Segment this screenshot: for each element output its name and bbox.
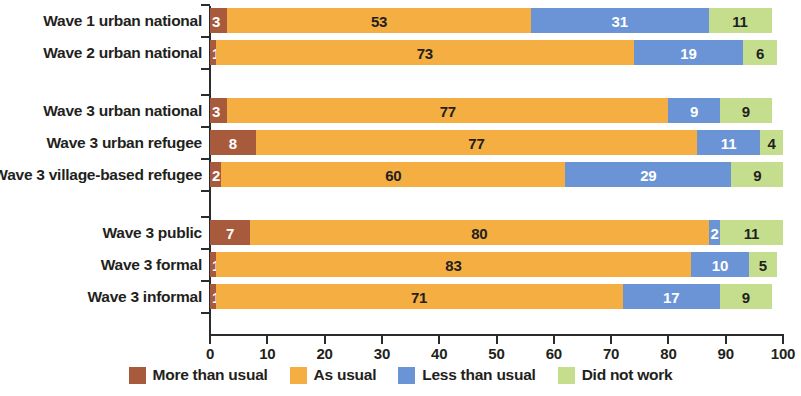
y-axis-tick [201,158,210,160]
bar-value-label: 8 [229,135,237,150]
x-axis-tick-label: 20 [302,345,348,362]
x-axis-tick [209,336,211,344]
bar-segment: 9 [731,162,783,187]
bar-value-label: 80 [471,225,487,240]
x-axis-tick [782,336,784,344]
bar-segment: 73 [216,40,634,65]
bar-value-label: 71 [411,289,427,304]
bar-segment: 2 [709,220,720,245]
bar-value-label: 2 [212,167,220,182]
bar-segment: 2 [210,162,221,187]
bar-segment: 9 [720,284,772,309]
legend-swatch [398,367,415,384]
x-axis-tick [725,336,727,344]
bar-value-label: 3 [212,13,220,28]
bar-segment: 8 [210,130,256,155]
bar-segment: 3 [210,8,227,33]
bar-value-label: 9 [742,103,750,118]
bar-segment: 53 [227,8,531,33]
y-axis-tick [201,126,210,128]
stacked-bar-chart: Wave 1 urban national3533111Wave 2 urban… [0,0,801,396]
bar-value-label: 11 [732,13,747,28]
y-axis-tick [201,312,210,314]
y-axis-tick [201,190,210,192]
y-axis-tick [201,248,210,250]
bar-row: 183105 [0,252,801,277]
x-axis-tick [266,336,268,344]
bar-value-label: 19 [680,45,696,60]
bar-value-label: 10 [712,257,728,272]
legend-item[interactable]: Did not work [558,366,673,384]
bar-segment: 29 [565,162,731,187]
bar-segment: 11 [709,8,772,33]
bar-segment: 77 [227,98,668,123]
x-axis-tick-label: 70 [588,345,634,362]
bar-row: 171179 [0,284,801,309]
x-axis-tick [438,336,440,344]
bar-value-label: 17 [663,289,679,304]
y-axis-tick [201,280,210,282]
legend-label: More than usual [153,366,268,384]
legend-label: Less than usual [422,366,535,384]
x-axis-tick-label: 90 [703,345,749,362]
bar-value-label: 60 [385,167,401,182]
bar-value-label: 31 [612,13,628,28]
bar-segment: 3 [210,98,227,123]
legend-item[interactable]: More than usual [129,366,268,384]
bar-value-label: 6 [756,45,764,60]
bar-segment: 9 [720,98,772,123]
bar-value-label: 9 [690,103,698,118]
bar-segment: 60 [221,162,565,187]
y-axis-tick [201,94,210,96]
bar-segment: 17 [623,284,720,309]
legend-item[interactable]: Less than usual [398,366,535,384]
bar-segment: 6 [743,40,777,65]
x-axis-tick [324,336,326,344]
x-axis-tick [496,336,498,344]
bar-segment: 83 [216,252,692,277]
bar-value-label: 3 [212,103,220,118]
bar-value-label: 83 [445,257,461,272]
bar-segment: 80 [250,220,708,245]
bar-segment: 77 [256,130,697,155]
legend-swatch [290,367,307,384]
legend-label: As usual [314,366,377,384]
bar-segment: 11 [697,130,760,155]
bar-value-label: 77 [468,135,484,150]
bar-value-label: 77 [440,103,456,118]
x-axis-tick-label: 40 [416,345,462,362]
bar-segment: 5 [749,252,778,277]
bar-row: 877114 [0,130,801,155]
bar-value-label: 4 [767,135,775,150]
bar-value-label: 11 [744,225,759,240]
bar-row: 3533111 [0,8,801,33]
x-axis-tick-label: 80 [645,345,691,362]
bar-value-label: 2 [711,225,719,240]
bar-value-label: 53 [371,13,387,28]
bar-segment: 11 [720,220,783,245]
x-axis-tick [381,336,383,344]
bar-row: 780211 [0,220,801,245]
bar-value-label: 9 [742,289,750,304]
legend-swatch [129,367,146,384]
x-axis-tick-label: 50 [474,345,520,362]
x-axis-tick [553,336,555,344]
bar-row: 37799 [0,98,801,123]
bar-segment: 9 [668,98,720,123]
legend-label: Did not work [582,366,673,384]
x-axis-tick [667,336,669,344]
x-axis-tick-label: 60 [531,345,577,362]
bar-segment: 4 [760,130,783,155]
x-axis-tick-label: 30 [359,345,405,362]
bar-value-label: 7 [226,225,234,240]
y-axis-tick [201,216,210,218]
bar-segment: 71 [216,284,623,309]
bar-segment: 19 [634,40,743,65]
legend-swatch [558,367,575,384]
legend-item[interactable]: As usual [290,366,377,384]
x-axis-tick-label: 0 [187,345,233,362]
bar-row: 173196 [0,40,801,65]
bar-segment: 7 [210,220,250,245]
bar-row: 260299 [0,162,801,187]
bar-value-label: 73 [417,45,433,60]
